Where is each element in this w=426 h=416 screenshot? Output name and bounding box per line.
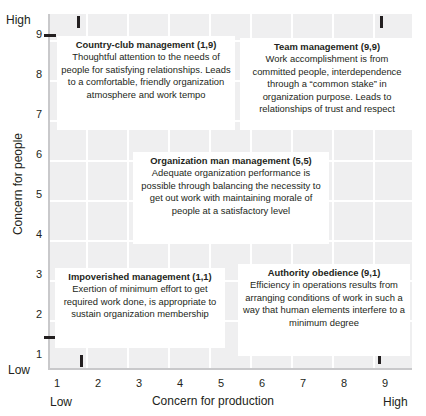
grid-style-body: Adequate organization performance is pos… bbox=[137, 167, 325, 217]
y-tick-label-8: 8 bbox=[26, 69, 42, 80]
grid-style-title: Authority obedience (9,1) bbox=[242, 267, 406, 279]
x-tick-label-9: 9 bbox=[377, 378, 393, 389]
y-tick-label-7: 7 bbox=[26, 109, 42, 120]
tick-mark-x-1 bbox=[80, 355, 83, 367]
x-axis-line bbox=[48, 368, 412, 370]
y-tick-label-6: 6 bbox=[26, 149, 42, 160]
x-tick-label-2: 2 bbox=[90, 378, 106, 389]
grid-style-body: Work accomplishment is from committed pe… bbox=[244, 53, 410, 115]
x-tick-label-5: 5 bbox=[213, 378, 229, 389]
x-tick-label-3: 3 bbox=[131, 378, 147, 389]
grid-style-impoverished-management: Impoverished management (1,1) Exertion o… bbox=[55, 268, 225, 348]
grid-style-organization-man-management: Organization man management (5,5) Adequa… bbox=[133, 152, 329, 244]
grid-style-title: Team management (9,9) bbox=[244, 41, 410, 53]
x-tick-label-4: 4 bbox=[172, 378, 188, 389]
grid-style-title: Country-club management (1,9) bbox=[61, 39, 231, 51]
x-axis-title: Concern for production bbox=[0, 394, 426, 408]
grid-style-body: Thoughtful attention to the needs of peo… bbox=[61, 51, 231, 101]
y-tick-label-9: 9 bbox=[26, 29, 42, 40]
x-tick-label-8: 8 bbox=[336, 378, 352, 389]
grid-style-authority-obedience: Authority obedience (9,1) Efficiency in … bbox=[238, 264, 410, 356]
y-tick-label-2: 2 bbox=[26, 309, 42, 320]
y-axis-high-label: High bbox=[6, 14, 31, 26]
x-tick-label-1: 1 bbox=[49, 378, 65, 389]
y-tick-label-3: 3 bbox=[26, 269, 42, 280]
grid-style-title: Impoverished management (1,1) bbox=[59, 271, 221, 283]
grid-style-team-management: Team management (9,9) Work accomplishmen… bbox=[240, 38, 414, 130]
grid-style-body: Efficiency in operations results from ar… bbox=[242, 279, 406, 329]
tick-mark-y-9 bbox=[44, 34, 56, 37]
y-axis-low-label: Low bbox=[8, 364, 30, 376]
y-axis-title: Concern for people bbox=[12, 104, 24, 264]
tick-mark-x-9-top bbox=[380, 16, 383, 28]
grid-style-title: Organization man management (5,5) bbox=[137, 155, 325, 167]
grid-style-country-club-management: Country-club management (1,9) Thoughtful… bbox=[57, 36, 235, 130]
y-tick-label-4: 4 bbox=[26, 229, 42, 240]
x-tick-label-7: 7 bbox=[295, 378, 311, 389]
tick-mark-x-1-top bbox=[77, 16, 80, 28]
y-axis-line bbox=[48, 14, 50, 370]
y-tick-label-1: 1 bbox=[26, 349, 42, 360]
x-tick-label-6: 6 bbox=[254, 378, 270, 389]
grid-style-body: Exertion of minimum effort to get requir… bbox=[59, 283, 221, 320]
y-tick-label-5: 5 bbox=[26, 189, 42, 200]
